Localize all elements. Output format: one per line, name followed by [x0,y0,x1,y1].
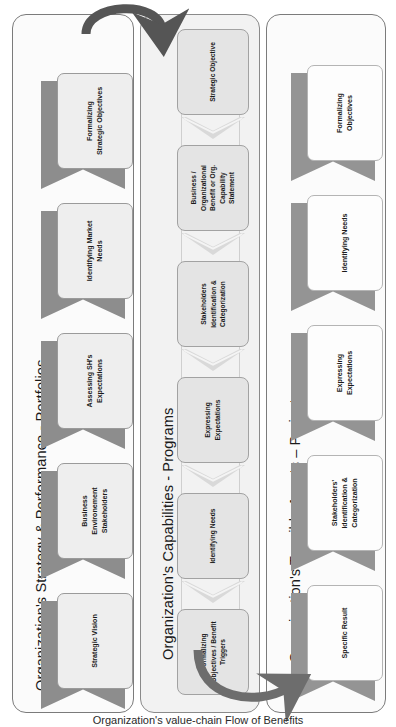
step-label: Identifying Needs [208,509,218,564]
step-label: Assessing SH'sExpectations [85,355,105,408]
ribbon-step[interactable]: ExpressingExpectations [291,325,383,441]
ribbon-step[interactable]: Identifying Needs [291,195,383,311]
ribbon-step[interactable]: Specific Result [291,585,383,701]
step-card: Stakeholders'Identification &Categorizat… [307,455,383,551]
step-card: FormalizingStrategic Objectives [57,73,133,169]
step-card: Strategic Objective [177,29,249,115]
step-label: Business /OrganizationalBenefit or Org.C… [189,165,237,211]
step-card: Specific Result [307,585,383,681]
ribbon-step[interactable]: Strategic Vision [41,593,133,709]
panel-programs-title: Organization's Capabilities - Programs [160,408,176,660]
ribbon-step[interactable]: Assessing SH'sExpectations [41,333,133,449]
panel-portfolios: Organization's Strategy & Performance - … [12,14,134,713]
step-label: Identifying Needs [340,213,350,272]
chevron-arrow-icon [181,349,245,371]
step-card: Identifying Needs [177,493,249,579]
step-card: FormalizingObjectives [307,65,383,161]
step-label: BusinessEnvironementStakeholders [80,487,110,534]
step-label: Specific Result [340,608,350,659]
step-card: StakeholdersIdentification &Categorizati… [177,261,249,347]
step-label: ExpressingExpectations [203,399,222,440]
step-card: BusinessEnvironementStakeholders [57,463,133,559]
step-card: Identifying MarketNeeds [57,203,133,299]
ribbon-step[interactable]: Identifying MarketNeeds [41,203,133,319]
step-label: FormalizingObjectives / BenefitTriggers [199,621,228,682]
step-label: Identifying MarketNeeds [85,221,105,282]
step-label: Stakeholders'Identification &Categorizat… [330,477,360,528]
step-card: Identifying Needs [307,195,383,291]
ribbon-step[interactable]: BusinessEnvironementStakeholders [41,463,133,579]
step-card: ExpressingExpectations [177,377,249,463]
chevron-arrow-icon [181,117,245,139]
diagram-caption: Organization's value-chain Flow of Benef… [0,714,396,726]
panel-programs: Organization's Capabilities - Programs F… [140,14,260,713]
chevron-arrow-icon [181,465,245,487]
rail-line [181,41,182,689]
ribbon-step[interactable]: FormalizingObjectives [291,65,383,181]
step-label: FormalizingObjectives [335,93,355,133]
step-label: ExpressingExpectations [335,351,355,395]
ribbon-step[interactable]: FormalizingStrategic Objectives [41,73,133,189]
step-card: Assessing SH'sExpectations [57,333,133,429]
step-label: Strategic Objective [208,42,218,102]
value-chain-diagram: Organization's Strategy & Performance - … [0,0,396,727]
step-label: FormalizingStrategic Objectives [85,87,105,155]
chevron-arrow-icon [181,233,245,255]
step-card: FormalizingObjectives / BenefitTriggers [177,609,249,695]
step-card: ExpressingExpectations [307,325,383,421]
rail-line [239,41,240,689]
chevron-arrow-icon [181,581,245,603]
step-label: Strategic Vision [90,614,100,667]
step-card: Strategic Vision [57,593,133,689]
panel-projects: Organization's Tangible Assets – Project… [266,14,386,713]
ribbon-step[interactable]: Stakeholders'Identification &Categorizat… [291,455,383,571]
step-label: StakeholdersIdentification &Categorizati… [199,280,228,328]
step-card: Business /OrganizationalBenefit or Org.C… [177,145,249,231]
